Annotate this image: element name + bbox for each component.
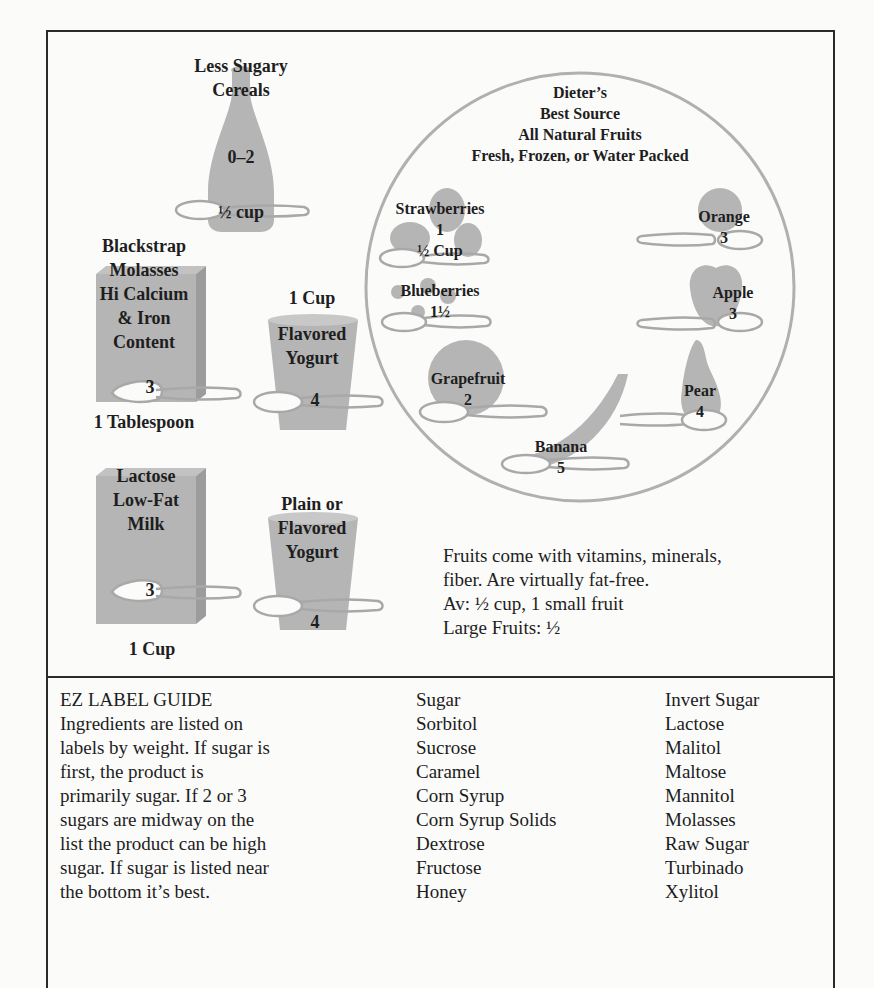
sugar-name: Lactose [665,712,759,736]
flavored-yogurt-title-line2: Yogurt [262,346,362,370]
cereal-serving: ½ cup [196,200,286,224]
milk-line: Low-Fat [94,488,198,512]
fruit-orange: Orange 3 [686,206,762,248]
label-guide-line: list the product can be high [60,832,270,856]
fruit-value: 3 [686,227,762,248]
label-guide: EZ LABEL GUIDE Ingredients are listed on… [60,688,270,904]
fruit-note-line: fiber. Are virtually fat-free. [443,568,722,592]
sugar-names-column-1: Sugar Sorbitol Sucrose Caramel Corn Syru… [416,688,556,904]
flavored-yogurt-value: 4 [300,388,330,412]
sugar-name: Honey [416,880,556,904]
fruit-grapefruit: Grapefruit 2 [416,368,520,410]
sugar-name: Corn Syrup [416,784,556,808]
label-guide-line: the bottom it’s best. [60,880,270,904]
sugar-name: Dextrose [416,832,556,856]
fruit-apple: Apple 3 [700,282,766,324]
sugar-name: Xylitol [665,880,759,904]
fruit-value: 1½ [384,301,496,322]
plain-yogurt-title-line2: Flavored [260,516,364,540]
sugar-name: Invert Sugar [665,688,759,712]
sugar-name: Molasses [665,808,759,832]
fruit-banana: Banana 5 [518,436,604,478]
molasses-line: & Iron [70,306,218,330]
fruit-name: Grapefruit [416,368,520,389]
fruit-value: 4 [672,401,728,422]
fruit-note-line: Large Fruits: ½ [443,616,722,640]
plain-yogurt-title-line3: Yogurt [260,540,364,564]
heading-line: Best Source [420,103,740,124]
sugar-name: Fructose [416,856,556,880]
milk-value: 3 [130,578,170,602]
label-guide-title: EZ LABEL GUIDE [60,688,270,712]
fruit-name: Orange [686,206,762,227]
milk-serving: 1 Cup [100,637,204,661]
sugar-name: Corn Syrup Solids [416,808,556,832]
fruit-name: Apple [700,282,766,303]
milk-line: Lactose [94,464,198,488]
label-guide-line: sugars are midway on the [60,808,270,832]
cereal-title: Less Sugary Cereals [178,54,304,102]
molasses-line: Blackstrap [70,234,218,258]
heading-line: All Natural Fruits [420,124,740,145]
molasses-serving: 1 Tablespoon [60,410,228,434]
milk-title: Lactose Low-Fat Milk [94,464,198,536]
cereal-title-line2: Cereals [178,78,304,102]
fruit-blueberries: Blueberries 1½ [384,280,496,322]
plain-yogurt-title-line1: Plain or [260,492,364,516]
fruit-serving: ½ Cup [380,240,500,261]
fruit-strawberries: Strawberries 1 ½ Cup [380,198,500,261]
sugar-name: Turbinado [665,856,759,880]
fruit-name: Banana [518,436,604,457]
cereal-title-line1: Less Sugary [178,54,304,78]
label-guide-line: labels by weight. If sugar is [60,736,270,760]
sugar-name: Maltose [665,760,759,784]
sugar-name: Sorbitol [416,712,556,736]
plain-yogurt-title: Plain or Flavored Yogurt [260,492,364,564]
fruit-value: 5 [518,457,604,478]
flavored-yogurt-title-line1: Flavored [262,322,362,346]
label-guide-line: sugar. If sugar is listed near [60,856,270,880]
sugar-name: Malitol [665,736,759,760]
fruit-note: Fruits come with vitamins, minerals, fib… [443,544,722,640]
fruit-value: 1 [380,219,500,240]
fruit-note-line: Fruits come with vitamins, minerals, [443,544,722,568]
heading-line: Dieter’s [420,82,740,103]
label-guide-line: Ingredients are listed on [60,712,270,736]
fruit-name: Blueberries [384,280,496,301]
label-guide-line: primarily sugar. If 2 or 3 [60,784,270,808]
label-guide-line: first, the product is [60,760,270,784]
molasses-line: Content [70,330,218,354]
heading-line: Fresh, Frozen, or Water Packed [420,145,740,166]
fruit-value: 2 [416,389,520,410]
fruit-circle-heading: Dieter’s Best Source All Natural Fruits … [420,82,740,166]
sugar-name: Sugar [416,688,556,712]
flavored-yogurt-title: Flavored Yogurt [262,322,362,370]
flavored-yogurt-serving: 1 Cup [270,286,354,310]
fruit-name: Pear [672,380,728,401]
fruit-note-line: Av: ½ cup, 1 small fruit [443,592,722,616]
fruit-value: 3 [700,303,766,324]
fruit-name: Strawberries [380,198,500,219]
milk-line: Milk [94,512,198,536]
sugar-name: Raw Sugar [665,832,759,856]
plain-yogurt-value: 4 [300,610,330,634]
molasses-line: Molasses [70,258,218,282]
molasses-line: Hi Calcium [70,282,218,306]
molasses-title: Blackstrap Molasses Hi Calcium & Iron Co… [70,234,218,354]
fruit-pear: Pear 4 [672,380,728,422]
molasses-value: 3 [130,375,170,399]
sugar-names-column-2: Invert Sugar Lactose Malitol Maltose Man… [665,688,759,904]
sugar-name: Mannitol [665,784,759,808]
cereal-value: 0–2 [200,145,282,169]
sugar-name: Caramel [416,760,556,784]
sugar-name: Sucrose [416,736,556,760]
